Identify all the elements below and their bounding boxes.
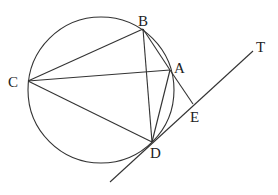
label-A: A [174, 60, 185, 76]
segment-CD [28, 81, 152, 142]
geometry-diagram: A B C D E T [0, 0, 278, 195]
label-C: C [8, 74, 18, 90]
segment-BA [143, 29, 170, 70]
label-B: B [138, 13, 148, 29]
label-E: E [190, 109, 199, 125]
label-T: T [256, 39, 265, 55]
segment-BD [143, 29, 152, 142]
label-D: D [150, 145, 161, 161]
